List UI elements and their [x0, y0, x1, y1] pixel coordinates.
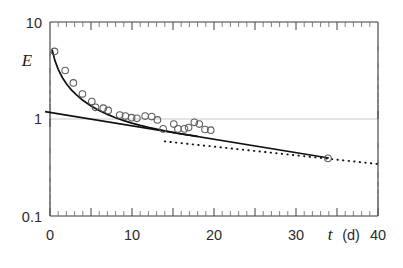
- x-axis-title-unit: (d): [342, 227, 360, 243]
- y-tick-label-1: 1: [34, 111, 42, 127]
- x-tick-label-10: 10: [124, 227, 140, 243]
- y-axis-title: E: [21, 51, 33, 70]
- x-tick-label-40: 40: [370, 227, 386, 243]
- chart-svg: 10 1 0.1 E 0 10 20 30 40 t (d): [0, 0, 403, 268]
- y-tick-label-10: 10: [26, 15, 42, 31]
- y-tick-label-01: 0.1: [22, 209, 42, 225]
- x-axis-title-symbol: t: [328, 225, 334, 244]
- x-tick-label-30: 30: [288, 227, 304, 243]
- x-tick-label-0: 0: [46, 227, 54, 243]
- x-tick-label-20: 20: [206, 227, 222, 243]
- chart-figure: 10 1 0.1 E 0 10 20 30 40 t (d): [0, 0, 403, 268]
